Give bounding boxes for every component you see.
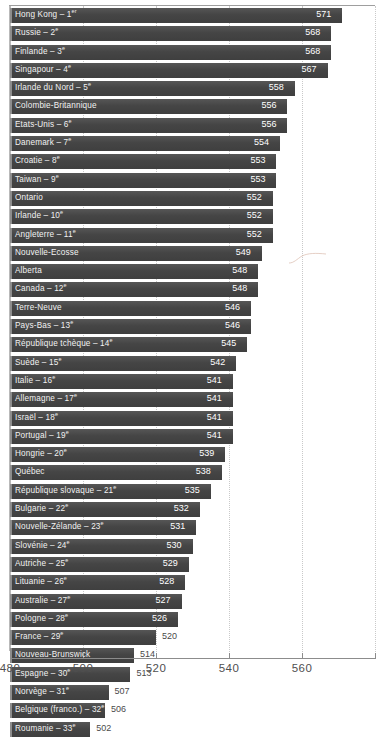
bar[interactable] <box>10 191 273 206</box>
bar-row[interactable]: Nouvelle-Ecosse549 <box>0 245 384 263</box>
top-rule <box>9 5 375 6</box>
bar-category-label: Australie – 27e <box>15 593 70 608</box>
rank-suffix: e <box>68 136 71 142</box>
rank-suffix: e <box>70 319 73 325</box>
bar-row[interactable]: Irlande du Nord – 5e558 <box>0 80 384 98</box>
rank-suffix: e <box>110 338 113 344</box>
bar-row[interactable]: Autriche – 25e529 <box>0 556 384 574</box>
bar-row[interactable]: Belgique (franco.) – 32e506 <box>0 702 384 720</box>
bar-row[interactable]: France – 29e520 <box>0 629 384 647</box>
rank-suffix: e <box>65 612 68 618</box>
rank-suffix: e <box>57 155 60 161</box>
bar-row[interactable]: Taiwan – 9e553 <box>0 172 384 190</box>
rank-suffix: e <box>72 722 75 728</box>
bar-row[interactable]: Etats-Unis – 6e556 <box>0 117 384 135</box>
bar-row[interactable]: Finlande – 3e568 <box>0 44 384 62</box>
bar-row[interactable]: Singapour – 4e567 <box>0 62 384 80</box>
bar-row[interactable]: Nouvelle-Zélande – 23e531 <box>0 519 384 537</box>
bar-row[interactable]: Alberta548 <box>0 263 384 281</box>
bar-category-label: Israël – 18e <box>15 410 58 425</box>
bar-category-label: Irlande du Nord – 5e <box>15 80 91 95</box>
bar-value-label: 567 <box>302 62 317 77</box>
bar-category-label: Norvège – 31e <box>15 684 69 699</box>
bar-category-label: Nouvelle-Ecosse <box>15 245 79 260</box>
axis-end-tick <box>375 653 376 659</box>
bar-row[interactable]: Québec538 <box>0 464 384 482</box>
bar-category-label: Terre-Neuve <box>15 300 62 315</box>
rank-suffix: e <box>60 210 63 216</box>
bar-row[interactable]: Irlande – 10e552 <box>0 208 384 226</box>
bar-row[interactable]: Norvège – 31e507 <box>0 684 384 702</box>
bar-category-label: Slovénie – 24e <box>15 538 70 553</box>
bar-row[interactable]: Slovénie – 24e530 <box>0 538 384 556</box>
bar-value-label: 556 <box>261 98 276 113</box>
rank-suffix: e <box>60 630 63 636</box>
bar-row[interactable]: Canada – 12e548 <box>0 281 384 299</box>
bar-row[interactable]: Angleterre – 11e552 <box>0 227 384 245</box>
bar-value-label: 553 <box>250 153 265 168</box>
bar-value-label: 526 <box>152 611 167 626</box>
rank-suffix: er <box>72 8 77 14</box>
bar-category-label: Canada – 12e <box>15 281 67 296</box>
bar-value-label: 539 <box>199 446 214 461</box>
bar-category-label: Italie – 16e <box>15 373 55 388</box>
bar-row[interactable]: Bulgarie – 22e532 <box>0 501 384 519</box>
bar-value-label: 528 <box>159 574 174 589</box>
bar-row[interactable]: Italie – 16e541 <box>0 373 384 391</box>
rank-suffix: e <box>74 393 77 399</box>
plot-area: Hong Kong – 1er571Russie – 2e568Finlande… <box>0 0 384 652</box>
bar-value-label: 546 <box>225 318 240 333</box>
rank-suffix: e <box>101 704 104 710</box>
bar-category-label: République tchèque – 14e <box>15 336 113 351</box>
bar-category-label: Roumanie – 33e <box>15 721 76 736</box>
bar-row[interactable]: République slovaque – 21e535 <box>0 483 384 501</box>
bar-row[interactable]: Croatie – 8e553 <box>0 153 384 171</box>
rank-suffix: e <box>73 228 76 234</box>
rank-suffix: e <box>67 594 70 600</box>
bar-row[interactable]: Russie – 2e568 <box>0 25 384 43</box>
bar-row[interactable]: Lituanie – 26e528 <box>0 574 384 592</box>
bar-category-label: Hong Kong – 1er <box>15 7 77 22</box>
rank-suffix: e <box>69 118 72 124</box>
bar-category-label: République slovaque – 21e <box>15 483 116 498</box>
bar-value-label: 548 <box>232 281 247 296</box>
axis-tick-480 <box>10 653 11 659</box>
bar-value-label: 554 <box>254 135 269 150</box>
bar-row[interactable]: Colombie-Britannique556 <box>0 98 384 116</box>
bar-row[interactable]: Allemagne – 17e541 <box>0 391 384 409</box>
bar-category-label: France – 29e <box>15 629 64 644</box>
bar-value-label: 541 <box>207 410 222 425</box>
bar-row[interactable]: Roumanie – 33e502 <box>0 721 384 739</box>
bar-row[interactable]: Ontario552 <box>0 190 384 208</box>
bar-category-label: Autriche – 25e <box>15 556 68 571</box>
bar-row[interactable]: Terre-Neuve546 <box>0 300 384 318</box>
bar-row[interactable]: Pays-Bas – 13e546 <box>0 318 384 336</box>
bar-row[interactable]: Hongrie – 20e539 <box>0 446 384 464</box>
axis-tick-520 <box>156 653 157 659</box>
bar-row[interactable]: Danemark – 7e554 <box>0 135 384 153</box>
rank-suffix: e <box>88 81 91 87</box>
bar[interactable] <box>10 264 258 279</box>
axis-tick-label-500: 500 <box>73 662 93 674</box>
bar-value-label: 553 <box>250 172 265 187</box>
rank-suffix: e <box>66 429 69 435</box>
bar-row[interactable]: Pologne – 28e526 <box>0 611 384 629</box>
bar-row[interactable]: République tchèque – 14e545 <box>0 336 384 354</box>
bar-category-label: Danemark – 7e <box>15 135 71 150</box>
bar-row[interactable]: Hong Kong – 1er571 <box>0 7 384 25</box>
axis-tick-540 <box>229 653 230 659</box>
bar-value-label: 552 <box>247 227 262 242</box>
bar-value-label: 545 <box>221 336 236 351</box>
rank-suffix: e <box>58 356 61 362</box>
bar-category-label: Taiwan – 9e <box>15 172 59 187</box>
bar-value-label: 568 <box>305 44 320 59</box>
rank-suffix: e <box>68 63 71 69</box>
rank-suffix: e <box>62 45 65 51</box>
bar-category-label: Colombie-Britannique <box>15 98 97 113</box>
bar-category-label: Pologne – 28e <box>15 611 68 626</box>
bar-row[interactable]: Australie – 27e527 <box>0 593 384 611</box>
rank-suffix: e <box>66 685 69 691</box>
bar-row[interactable]: Portugal – 19e541 <box>0 428 384 446</box>
bar-row[interactable]: Israël – 18e541 <box>0 410 384 428</box>
bar-row[interactable]: Suède – 15e542 <box>0 355 384 373</box>
